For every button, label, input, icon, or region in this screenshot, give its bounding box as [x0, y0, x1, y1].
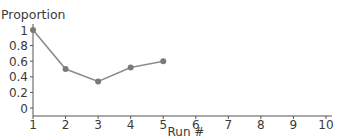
y-tick-label: 0.4 — [9, 70, 28, 84]
y-tick-label: 0.6 — [9, 55, 28, 69]
x-axis-label: Run # — [168, 125, 205, 139]
x-tick-label: 3 — [94, 118, 102, 132]
x-tick-label: 8 — [257, 118, 265, 132]
y-tick-label: 0 — [20, 102, 28, 116]
x-tick-label: 7 — [225, 118, 233, 132]
y-axis-label: Proportion — [1, 7, 66, 22]
y-tick-label: 1 — [20, 24, 28, 38]
line-chart: Proportion 00.20.40.60.81 12345678910 Ru… — [0, 0, 342, 140]
x-tick-label: 4 — [127, 118, 135, 132]
data-point — [63, 66, 69, 72]
y-tick-label: 0.8 — [9, 39, 28, 53]
x-tick-label: 1 — [29, 118, 37, 132]
x-tick-label: 2 — [62, 118, 70, 132]
y-tick-labels: 00.20.40.60.81 — [9, 24, 28, 116]
x-tick-label: 9 — [290, 118, 298, 132]
x-tick-label: 10 — [318, 118, 333, 132]
data-point — [128, 64, 134, 70]
x-tick-label: 5 — [159, 118, 167, 132]
y-tick-label: 0.2 — [9, 86, 28, 100]
series-line — [33, 30, 163, 81]
data-point — [95, 78, 101, 84]
data-point — [30, 27, 36, 33]
axes — [30, 24, 332, 119]
data-markers — [30, 27, 166, 84]
data-point — [160, 58, 166, 64]
